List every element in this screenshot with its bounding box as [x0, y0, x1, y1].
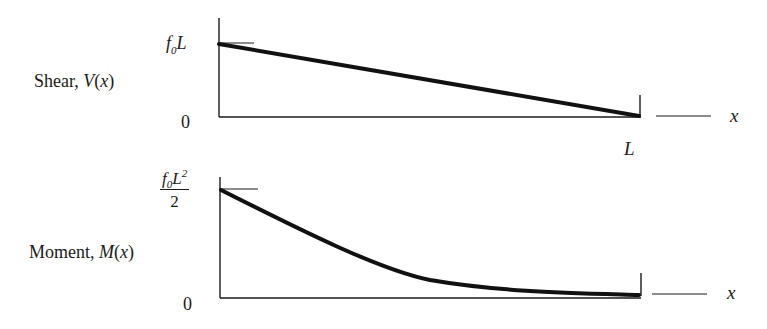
- diagram-canvas: [0, 0, 767, 329]
- moment-title-func: M: [99, 242, 114, 262]
- moment-top-value-numerator: f0L2: [160, 170, 189, 190]
- shear-axis-title: Shear, V(x): [34, 72, 114, 90]
- moment-title-arg: x: [120, 242, 128, 262]
- moment-top-value-label: f0L2 2: [160, 170, 189, 210]
- shear-x-axis-label: x: [730, 106, 738, 125]
- shear-title-func: V: [83, 71, 94, 91]
- moment-top-value-denominator: 2: [160, 190, 189, 210]
- moment-title-paren-close: ): [128, 242, 134, 262]
- moment-curve: [221, 190, 639, 295]
- moment-num-sup: 2: [182, 167, 188, 179]
- shear-top-value-label: f0L: [166, 34, 187, 52]
- moment-x-axis-label: x: [727, 283, 735, 302]
- moment-plot: [220, 177, 707, 298]
- shear-end-label: L: [624, 139, 635, 158]
- moment-num-tail: L: [172, 169, 181, 188]
- shear-curve: [219, 44, 639, 116]
- moment-axis-title: Moment, M(x): [29, 243, 134, 261]
- shear-title-prefix: Shear,: [34, 71, 83, 91]
- shear-plot: [219, 18, 711, 117]
- shear-top-value-tail: L: [177, 33, 187, 53]
- shear-zero-label: 0: [181, 113, 190, 131]
- moment-title-prefix: Moment,: [29, 242, 99, 262]
- moment-zero-label: 0: [183, 295, 192, 313]
- shear-title-paren-close: ): [108, 71, 114, 91]
